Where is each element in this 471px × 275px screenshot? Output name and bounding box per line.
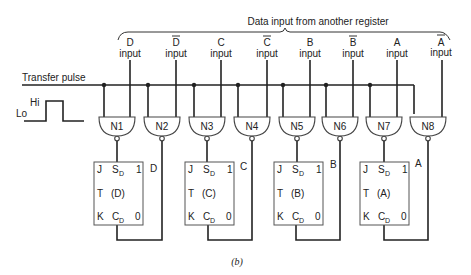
flipflop-b: J SD 1 T (B) K CD 0 B <box>274 159 337 225</box>
svg-text:D: D <box>210 217 215 224</box>
svg-text:1: 1 <box>136 164 142 175</box>
svg-text:N8: N8 <box>422 121 435 132</box>
svg-text:1: 1 <box>227 164 233 175</box>
transfer-pulse-label: Transfer pulse <box>22 72 86 83</box>
svg-text:K: K <box>188 211 195 222</box>
pulse-hi-label: Hi <box>30 97 39 108</box>
input-bbar-label: input <box>342 48 364 59</box>
svg-text:0: 0 <box>135 211 141 222</box>
nand-gates: N1 N2 N3 N4 N5 N6 N7 N8 <box>99 117 446 141</box>
gate-n3: N3 <box>189 117 225 141</box>
svg-text:0: 0 <box>315 211 321 222</box>
input-b-label: input <box>299 48 321 59</box>
register-transfer-diagram: Data input from another register D input… <box>0 0 471 275</box>
input-c-name: C <box>217 37 224 48</box>
gate-n8: N8 <box>410 117 446 141</box>
output-b-label: B <box>330 159 337 170</box>
svg-text:N1: N1 <box>111 121 124 132</box>
svg-text:K: K <box>277 211 284 222</box>
input-d-name: D <box>126 37 133 48</box>
gate-n2: N2 <box>144 117 180 141</box>
svg-text:D: D <box>385 170 390 177</box>
output-a-label: A <box>415 158 422 169</box>
svg-text:T: T <box>363 188 369 199</box>
svg-text:S: S <box>112 164 119 175</box>
gate-n7: N7 <box>366 117 402 141</box>
svg-text:N2: N2 <box>156 121 169 132</box>
output-c-label: C <box>240 161 247 172</box>
svg-text:J: J <box>277 164 282 175</box>
input-d-label: input <box>119 48 141 59</box>
svg-text:(D): (D) <box>111 188 125 199</box>
svg-text:N3: N3 <box>201 121 214 132</box>
input-a-name: A <box>394 37 401 48</box>
flipflop-a: J SD 1 T (A) K CD 0 A <box>360 158 422 225</box>
svg-text:D: D <box>299 170 304 177</box>
input-dbar-label: input <box>165 48 187 59</box>
svg-text:K: K <box>97 211 104 222</box>
gate-n1: N1 <box>99 117 135 141</box>
svg-text:D: D <box>385 217 390 224</box>
pulse-lo-label: Lo <box>16 108 28 119</box>
svg-text:N5: N5 <box>291 121 304 132</box>
flipflop-c: J SD 1 T (C) K CD 0 C <box>185 161 247 225</box>
gate-n5: N5 <box>279 117 315 141</box>
svg-text:N4: N4 <box>246 121 259 132</box>
input-c-label: input <box>210 48 232 59</box>
svg-text:(B): (B) <box>291 188 304 199</box>
svg-text:(A): (A) <box>377 188 390 199</box>
gate-n6: N6 <box>322 117 358 141</box>
svg-text:S: S <box>292 164 299 175</box>
junctions <box>102 83 372 117</box>
svg-text:(C): (C) <box>202 188 216 199</box>
input-bbar-name: B <box>350 37 357 48</box>
svg-text:N7: N7 <box>378 121 391 132</box>
svg-text:0: 0 <box>401 211 407 222</box>
figure-caption: (b) <box>231 256 243 268</box>
input-cbar-label: input <box>256 48 278 59</box>
svg-text:D: D <box>210 170 215 177</box>
input-a-label: input <box>386 48 408 59</box>
svg-text:J: J <box>97 164 102 175</box>
svg-text:S: S <box>203 164 210 175</box>
flipflop-d: J SD 1 T (D) K CD 0 D <box>94 162 157 225</box>
input-cbar-name: C <box>263 37 270 48</box>
svg-text:J: J <box>188 164 193 175</box>
data-input-lines <box>130 60 442 117</box>
output-d-label: D <box>150 163 157 174</box>
diagram-title: Data input from another register <box>247 16 389 27</box>
input-b-name: B <box>307 37 314 48</box>
svg-text:J: J <box>363 164 368 175</box>
svg-text:0: 0 <box>226 211 232 222</box>
svg-text:K: K <box>363 211 370 222</box>
svg-text:N6: N6 <box>334 121 347 132</box>
svg-text:1: 1 <box>402 164 408 175</box>
svg-text:T: T <box>277 188 283 199</box>
svg-text:D: D <box>119 170 124 177</box>
svg-text:T: T <box>97 188 103 199</box>
svg-text:D: D <box>299 217 304 224</box>
input-labels: D input D input C input C input B input … <box>119 35 452 59</box>
gate-n4: N4 <box>234 117 270 141</box>
svg-text:T: T <box>188 188 194 199</box>
input-abar-label: input <box>430 47 452 58</box>
svg-text:1: 1 <box>316 164 322 175</box>
input-dbar-name: D <box>172 37 179 48</box>
svg-text:S: S <box>378 164 385 175</box>
svg-text:D: D <box>119 217 124 224</box>
